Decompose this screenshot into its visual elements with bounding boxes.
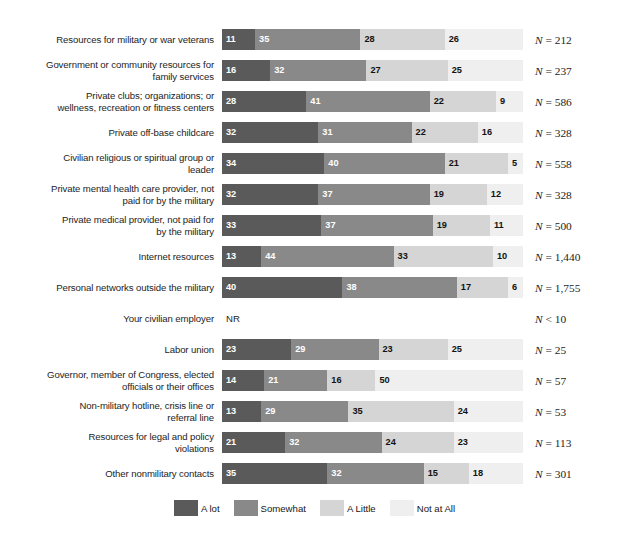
bar-segment-value: 37	[325, 221, 335, 230]
sample-size-symbol: N	[535, 468, 543, 480]
bar-segment-value: 44	[265, 252, 275, 261]
bar-segment: 35	[222, 463, 327, 484]
bar-segment-value: 33	[226, 221, 236, 230]
bar-segment-value: 15	[428, 469, 438, 478]
bar-segment: 12	[487, 184, 523, 205]
bar-segment-value: 50	[379, 376, 389, 385]
bar-segment-value: 18	[473, 469, 483, 478]
sample-size-symbol: N	[535, 127, 543, 139]
row-label-line: referral line	[0, 412, 214, 424]
bar-track: 2841229	[222, 91, 523, 112]
sample-size-value: = 57	[543, 375, 567, 387]
bar-segment: 31	[318, 122, 411, 143]
row-label-line: Civilian religious or spiritual group or	[0, 152, 214, 164]
bar-segment: 13	[222, 246, 261, 267]
chart-row: Other nonmilitary contacts35321518N = 30…	[0, 458, 629, 489]
bar-segment: 13	[222, 401, 261, 422]
sample-size-label: N = 53	[523, 406, 619, 418]
bar-segment: 38	[342, 277, 456, 298]
bar-segment: 29	[261, 401, 348, 422]
bar-segment: 32	[327, 463, 423, 484]
bar-track: 14211650	[222, 370, 523, 391]
row-label-line: leader	[0, 164, 214, 176]
bar-segment: 17	[457, 277, 508, 298]
sample-size-symbol: N	[535, 65, 543, 77]
chart-rows: Resources for military or war veterans11…	[0, 24, 629, 489]
bar-segment-value: 13	[226, 407, 236, 416]
bar-segment-value: 21	[226, 438, 236, 447]
sample-size-value: = 25	[543, 344, 567, 356]
bar-segment-value: 28	[364, 35, 374, 44]
bar-segment: 25	[448, 60, 523, 81]
bar-segment: 32	[285, 432, 381, 453]
bar-segment-value: 38	[346, 283, 356, 292]
bar-segment: 21	[445, 153, 508, 174]
sample-size-value: = 328	[543, 189, 572, 201]
bar-segment-value: 40	[328, 159, 338, 168]
bar-segment-value: 19	[434, 190, 444, 199]
chart-row: Your civilian employerNRN < 10	[0, 303, 629, 334]
bar-segment: 21	[264, 370, 327, 391]
bar-segment-value: 28	[226, 97, 236, 106]
row-label-line: paid for by the military	[0, 195, 214, 207]
row-label: Personal networks outside the military	[0, 282, 222, 294]
bar-segment: 23	[454, 432, 523, 453]
sample-size-label: N = 1,440	[523, 251, 619, 263]
bar-segment-value: 37	[322, 190, 332, 199]
sample-size-label: N = 237	[523, 65, 619, 77]
sample-size-label: N = 500	[523, 220, 619, 232]
bar-segment-value: 35	[226, 469, 236, 478]
chart-row: Private off-base childcare32312216N = 32…	[0, 117, 629, 148]
bar-segment-value: 19	[437, 221, 447, 230]
row-label: Resources for legal and policyviolations	[0, 431, 222, 454]
row-label-line: officials or their offices	[0, 381, 214, 393]
row-label: Government or community resources forfam…	[0, 59, 222, 82]
sample-size-symbol: N	[535, 251, 543, 263]
row-label-line: Personal networks outside the military	[0, 282, 214, 294]
sample-size-value: = 53	[543, 406, 567, 418]
bar-track: 32312216	[222, 122, 523, 143]
bar-segment: 16	[327, 370, 375, 391]
bar-segment: 10	[493, 246, 523, 267]
sample-size-value: = 1,755	[543, 282, 581, 294]
row-label: Internet resources	[0, 251, 222, 263]
bar-segment-value: 32	[226, 190, 236, 199]
bar-segment-value: 31	[322, 128, 332, 137]
bar-segment: 29	[291, 339, 378, 360]
row-label-line: Governor, member of Congress, elected	[0, 369, 214, 381]
row-label: Private mental health care provider, not…	[0, 183, 222, 206]
legend-swatch-icon	[174, 500, 198, 516]
bar-segment: 24	[382, 432, 454, 453]
row-label-line: Resources for legal and policy	[0, 431, 214, 443]
row-label-line: Private mental health care provider, not	[0, 183, 214, 195]
bar-segment-value: 27	[370, 66, 380, 75]
bar-segment-value: 40	[226, 283, 236, 292]
sample-size-value: = 301	[543, 468, 572, 480]
row-label: Private off-base childcare	[0, 127, 222, 139]
sample-size-value: = 328	[543, 127, 572, 139]
bar-segment: 41	[306, 91, 429, 112]
row-label-line: Other nonmilitary contacts	[0, 468, 214, 480]
sample-size-label: N = 558	[523, 158, 619, 170]
bar-segment: 14	[222, 370, 264, 391]
sample-size-value: = 500	[543, 220, 572, 232]
bar-segment-value: 16	[331, 376, 341, 385]
bar-segment: 40	[222, 277, 342, 298]
no-response-label: NR	[222, 308, 240, 329]
bar-segment-value: 34	[226, 159, 236, 168]
row-label-line: Private off-base childcare	[0, 127, 214, 139]
bar-segment-value: 24	[458, 407, 468, 416]
sample-size-value: = 113	[543, 437, 572, 449]
bar-track: 23292325	[222, 339, 523, 360]
bar-segment-value: 23	[226, 345, 236, 354]
bar-track: 16322725	[222, 60, 523, 81]
sample-size-symbol: N	[535, 34, 543, 46]
row-label-line: wellness, recreation or fitness centers	[0, 102, 214, 114]
row-label-line: Private clubs; organizations; or	[0, 90, 214, 102]
sample-size-label: N = 328	[523, 189, 619, 201]
bar-segment-value: 23	[458, 438, 468, 447]
chart-row: Labor union23292325N = 25	[0, 334, 629, 365]
chart-row: Private medical provider, not paid forby…	[0, 210, 629, 241]
bar-segment: 24	[454, 401, 523, 422]
row-label: Private medical provider, not paid forby…	[0, 214, 222, 237]
